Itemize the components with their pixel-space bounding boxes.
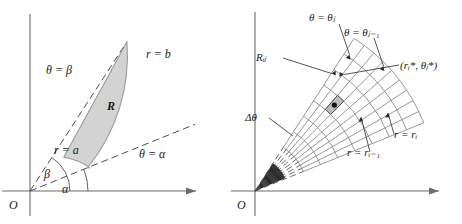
left-polar-region-panel: O θ = β r = b R r = a θ = α β α (0, 0, 231, 224)
right-label-r-equals-ri-minus-1: r = rᵢ₋₁ (347, 146, 380, 158)
left-label-r-equals-a: r = a (54, 143, 79, 157)
right-leader-arrowheads (332, 55, 390, 122)
right-label-sample-point: (rᵢ*, θⱼ*) (400, 59, 438, 72)
right-origin-label: O (237, 198, 246, 212)
left-angle-arc-alpha (84, 169, 88, 191)
left-label-theta-equals-alpha: θ = α (139, 147, 166, 161)
right-label-delta-theta: Δθ (244, 111, 257, 123)
left-region-label: R (106, 99, 115, 113)
right-sample-point-dot (332, 102, 337, 107)
left-label-beta: β (43, 167, 50, 181)
right-label-theta-j-minus-1: θ = θⱼ₋₁ (344, 26, 380, 38)
left-label-theta-beta: θ = β (46, 63, 72, 77)
right-label-r-equals-ri: r = rᵢ (394, 128, 417, 140)
right-inner-dashed-rays (255, 147, 303, 191)
figure-canvas: O θ = β r = b R r = a θ = α β α (0, 0, 462, 224)
right-axis-arrowhead (429, 187, 439, 194)
left-label-r-equals-b: r = b (146, 47, 171, 61)
right-leader-lines (269, 24, 399, 152)
left-ray-theta-alpha (30, 124, 195, 191)
left-origin-label: O (9, 198, 18, 212)
right-label-theta-j: θ = θⱼ (309, 11, 336, 23)
right-label-Rij: Rᵢⱼ (255, 51, 267, 63)
left-axis-arrowhead (186, 187, 196, 194)
left-label-alpha: α (62, 182, 69, 196)
right-polar-subdivision-panel: O θ = θⱼ θ = θⱼ₋₁ Rᵢⱼ (rᵢ*, θⱼ*) Δθ r = … (231, 0, 462, 224)
